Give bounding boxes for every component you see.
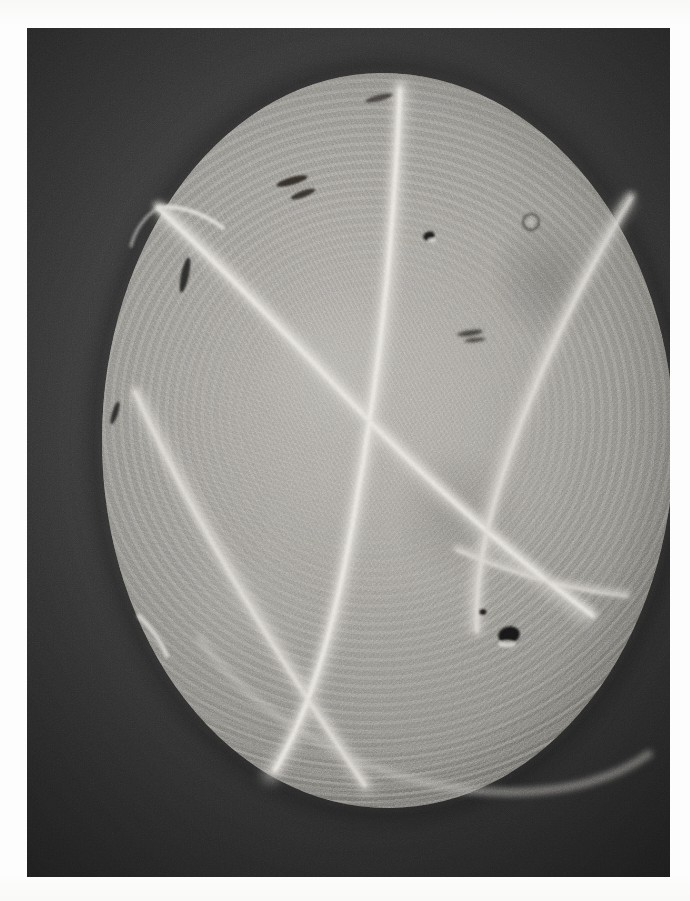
striation-texture-upper-left xyxy=(102,73,670,808)
tonal-blotches xyxy=(102,73,670,808)
photographic-plate xyxy=(0,0,690,901)
striation-texture-lower-right xyxy=(102,73,670,808)
photo-frame xyxy=(27,28,670,877)
concentric-rings-inner xyxy=(102,73,670,808)
striation-texture-left xyxy=(102,73,670,808)
concentric-rings-outer xyxy=(102,73,670,808)
specimen-disc xyxy=(102,73,670,808)
plate-caption xyxy=(0,0,1,1)
